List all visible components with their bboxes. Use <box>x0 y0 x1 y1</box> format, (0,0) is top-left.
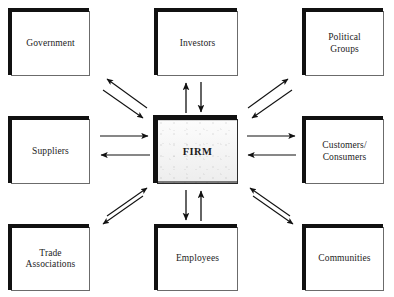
node-government[interactable]: Government <box>11 11 90 76</box>
node-firm[interactable]: FIRM <box>157 119 238 184</box>
arrow-firm-to-government <box>107 79 147 108</box>
arrow-pair-firm-investors <box>186 82 201 113</box>
node-firm-label: FIRM <box>180 146 216 158</box>
arrow-pair-firm-suppliers <box>100 136 150 155</box>
node-investors-label: Investors <box>177 38 219 50</box>
stakeholder-diagram: Government Investors Political Groups Su… <box>0 0 394 297</box>
arrow-communities-to-firm <box>250 188 290 216</box>
node-employees-label: Employees <box>173 253 222 265</box>
node-communities-label: Communities <box>315 253 373 265</box>
node-government-label: Government <box>23 38 78 50</box>
node-employees[interactable]: Employees <box>157 227 238 291</box>
node-customers-label: Customers/ Consumers <box>319 140 369 163</box>
arrow-pair-firm-employees <box>186 190 201 221</box>
node-trade-associations-label: Trade Associations <box>23 248 79 271</box>
node-suppliers-label: Suppliers <box>29 146 72 158</box>
arrow-government-to-firm <box>103 90 143 118</box>
arrow-political-groups-to-firm <box>252 90 292 118</box>
arrow-trade-associations-to-firm <box>107 188 147 216</box>
arrow-pair-firm-trade-associations <box>103 188 147 224</box>
arrow-pair-firm-communities <box>250 188 293 224</box>
node-customers[interactable]: Customers/ Consumers <box>305 119 384 184</box>
node-political-groups[interactable]: Political Groups <box>305 11 384 76</box>
arrow-pair-firm-government <box>103 79 147 118</box>
arrow-firm-to-communities <box>253 196 293 224</box>
node-political-groups-label: Political Groups <box>325 32 364 55</box>
node-communities[interactable]: Communities <box>305 227 384 291</box>
arrow-pair-firm-political-groups <box>248 79 292 118</box>
node-suppliers[interactable]: Suppliers <box>11 119 90 184</box>
node-trade-associations[interactable]: Trade Associations <box>11 227 90 291</box>
arrow-pair-firm-customers <box>247 136 296 155</box>
arrow-firm-to-trade-associations <box>103 196 143 224</box>
arrow-firm-to-political-groups <box>248 79 288 108</box>
node-investors[interactable]: Investors <box>157 11 238 76</box>
